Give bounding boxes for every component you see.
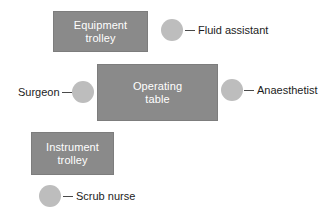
box-instrument-trolley: Instrument trolley bbox=[31, 132, 114, 175]
box-label-instrument-trolley: Instrument trolley bbox=[42, 141, 103, 167]
person-circle-scrub-nurse bbox=[39, 185, 61, 207]
person-label-fluid-assistant: Fluid assistant bbox=[198, 24, 268, 37]
diagram-canvas: Equipment trolley Operating table Instru… bbox=[0, 0, 332, 220]
person-label-surgeon: Surgeon bbox=[18, 86, 60, 99]
person-circle-fluid-assistant bbox=[161, 19, 183, 41]
person-circle-surgeon bbox=[72, 81, 94, 103]
person-label-scrub-nurse: Scrub nurse bbox=[76, 190, 135, 203]
box-operating-table: Operating table bbox=[97, 64, 218, 121]
leader-line-anaesthetist bbox=[244, 90, 254, 91]
box-label-equipment-trolley: Equipment trolley bbox=[70, 19, 132, 45]
person-circle-anaesthetist bbox=[221, 79, 243, 101]
person-label-anaesthetist: Anaesthetist bbox=[257, 84, 318, 97]
leader-line-scrub-nurse bbox=[63, 196, 73, 197]
box-equipment-trolley: Equipment trolley bbox=[53, 11, 148, 52]
box-label-operating-table: Operating table bbox=[129, 80, 186, 106]
leader-line-fluid-assistant bbox=[185, 30, 195, 31]
leader-line-surgeon bbox=[62, 92, 72, 93]
